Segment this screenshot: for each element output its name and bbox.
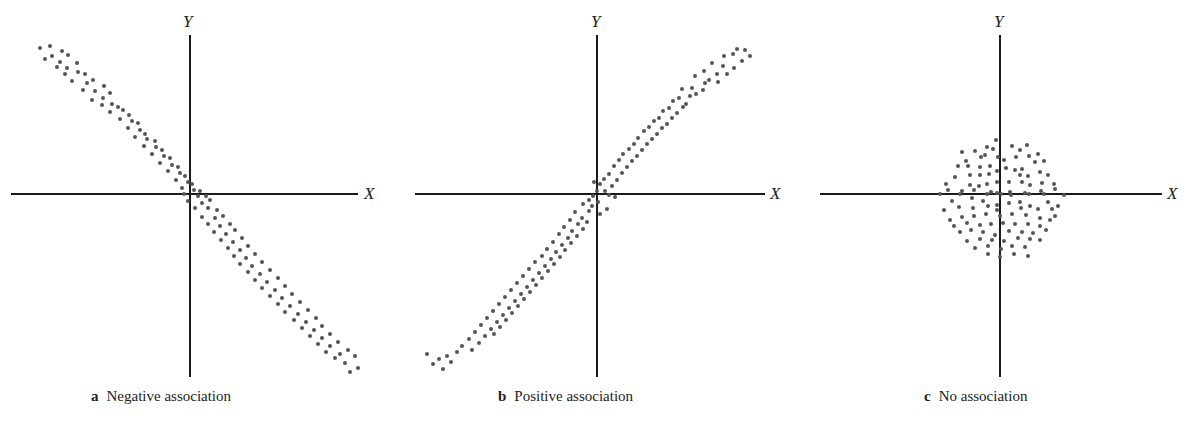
data-point (1020, 230, 1024, 234)
data-point (166, 169, 170, 173)
x-axis-label: X (1167, 184, 1177, 204)
data-point (1016, 236, 1020, 240)
data-point (655, 132, 659, 136)
data-point (948, 218, 952, 222)
panel-c: Y X cNo association (800, 0, 1186, 431)
data-point (1010, 212, 1014, 216)
data-point (519, 292, 523, 296)
data-point (102, 84, 106, 88)
data-point (246, 270, 250, 274)
data-point (1028, 183, 1032, 187)
data-point (996, 155, 1000, 159)
data-point (585, 220, 589, 224)
data-point (1014, 155, 1018, 159)
data-point (568, 218, 572, 222)
data-point (60, 49, 64, 53)
data-point (1018, 200, 1022, 204)
data-point (65, 66, 69, 70)
data-point (356, 366, 360, 370)
data-point (238, 248, 242, 252)
data-point (304, 320, 308, 324)
data-point (449, 360, 453, 364)
data-point (336, 340, 340, 344)
data-point (63, 72, 67, 76)
data-point (999, 247, 1003, 251)
data-point (560, 243, 564, 247)
data-point (1012, 252, 1016, 256)
data-point (977, 184, 981, 188)
data-point (200, 201, 204, 205)
data-point (531, 278, 535, 282)
data-point (984, 212, 988, 216)
data-point (1031, 231, 1035, 235)
data-point (158, 161, 162, 165)
data-point (942, 208, 946, 212)
data-point (965, 239, 969, 243)
data-point (986, 204, 990, 208)
data-point (603, 189, 607, 193)
data-point (970, 196, 974, 200)
data-point (964, 159, 968, 163)
data-point (598, 212, 602, 216)
data-point (988, 164, 992, 168)
data-point (218, 224, 222, 228)
data-point (540, 276, 544, 280)
data-point (320, 336, 324, 340)
data-point (1046, 173, 1050, 177)
data-point (75, 61, 79, 65)
data-point (670, 116, 674, 120)
data-point (153, 139, 157, 143)
data-point (642, 129, 646, 133)
data-point (497, 302, 501, 306)
data-point (228, 222, 232, 226)
data-point (492, 332, 496, 336)
data-point (995, 208, 999, 212)
data-point (292, 318, 296, 322)
data-point (1023, 245, 1027, 249)
data-point (154, 145, 158, 149)
data-point (990, 238, 994, 242)
data-point (533, 260, 537, 264)
data-point (716, 80, 720, 84)
y-axis-label: Y (994, 12, 1003, 32)
data-point (998, 214, 1002, 218)
data-point (138, 128, 142, 132)
data-point (545, 247, 549, 251)
data-point (238, 262, 242, 266)
data-point (467, 337, 471, 341)
data-point (665, 122, 669, 126)
data-point (265, 280, 269, 284)
data-point (590, 204, 594, 208)
data-point (710, 61, 714, 65)
data-point (298, 300, 302, 304)
data-point (232, 254, 236, 258)
data-point (300, 326, 304, 330)
data-point (521, 274, 525, 278)
data-point (127, 113, 131, 117)
data-point (1038, 224, 1042, 228)
data-point (176, 165, 180, 169)
data-point (522, 297, 526, 301)
data-point (250, 264, 254, 268)
panel-letter: b (498, 388, 506, 404)
data-point (116, 105, 120, 109)
caption-text: Positive association (514, 388, 633, 404)
data-point (630, 159, 634, 163)
data-point (981, 230, 985, 234)
data-point (504, 318, 508, 322)
data-point (437, 357, 441, 361)
data-point (957, 205, 961, 209)
data-point (328, 344, 332, 348)
data-point (215, 208, 219, 212)
data-point (562, 225, 566, 229)
data-point (978, 173, 982, 177)
data-point (952, 224, 956, 228)
data-point (1026, 254, 1030, 258)
data-point (206, 222, 210, 226)
data-point (707, 78, 711, 82)
x-axis-label: X (770, 184, 780, 204)
data-point (320, 324, 324, 328)
data-point (186, 180, 190, 184)
data-point (650, 137, 654, 141)
data-point (431, 362, 435, 366)
